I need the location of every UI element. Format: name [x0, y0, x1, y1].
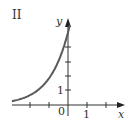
origin-label: 0	[58, 105, 65, 118]
x-axis-label: x	[118, 108, 125, 121]
graph-panel: II y x 0 1 1	[0, 0, 133, 128]
x-tick-label-1: 1	[83, 108, 90, 121]
y-tick-label-1: 1	[57, 84, 64, 97]
y-axis-label: y	[55, 15, 63, 28]
chart-svg: y x 0 1 1	[0, 0, 133, 128]
